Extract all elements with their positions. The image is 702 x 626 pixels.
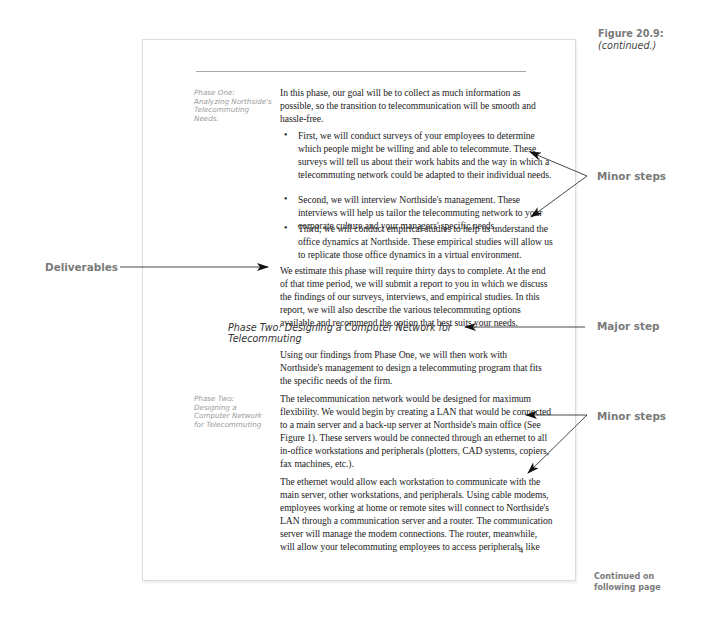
annotation-arrows [0,0,702,626]
arrow-icon [530,152,587,176]
arrow-icon [528,415,587,473]
arrow-icon [531,176,587,217]
